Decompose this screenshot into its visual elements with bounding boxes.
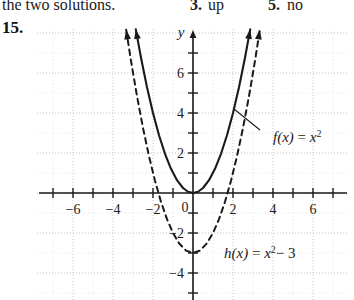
- x-tick-label: 2: [230, 202, 237, 217]
- y-axis-name: y: [176, 28, 185, 40]
- y-tick-label: −4: [169, 266, 184, 281]
- y-tick-label: 2: [177, 146, 184, 161]
- answer-item-number-3: 3.: [190, 0, 202, 14]
- answer-key-strip: the two solutions. 3. up 5. no: [0, 0, 354, 18]
- origin-label: 0: [182, 200, 189, 215]
- x-tick-label: 6: [310, 202, 317, 217]
- x-tick-label: −4: [106, 202, 121, 217]
- curve-arrow-h-left: [124, 30, 131, 40]
- axis-labels: −6−4−2246642−2−40y: [66, 28, 317, 281]
- curve-arrow-h-right: [255, 30, 262, 40]
- h-function-label: h(x) = x2− 3: [224, 244, 296, 263]
- answer-item-text-3: up: [208, 0, 224, 14]
- f-function-label: f(x) = x2: [273, 128, 321, 147]
- graph-figure: −6−4−2246642−2−40y f(x) = x2h(x) = x2− 3: [0, 28, 354, 300]
- y-tick-label: 6: [177, 66, 184, 81]
- coordinate-plane: −6−4−2246642−2−40y f(x) = x2h(x) = x2− 3: [0, 28, 354, 300]
- x-tick-label: −6: [66, 202, 81, 217]
- answer-item-text-5: no: [287, 0, 303, 14]
- x-tick-label: −2: [146, 202, 161, 217]
- y-tick-label: −2: [169, 226, 184, 241]
- x-tick-label: 4: [270, 202, 277, 217]
- answer-trailing-text: the two solutions.: [2, 0, 115, 14]
- page: the two solutions. 3. up 5. no 15. −6−4−…: [0, 0, 354, 300]
- y-tick-label: 4: [177, 106, 184, 121]
- answer-item-number-5: 5.: [268, 0, 280, 14]
- axis-layer: [39, 30, 347, 300]
- y-axis-arrow: [190, 30, 197, 38]
